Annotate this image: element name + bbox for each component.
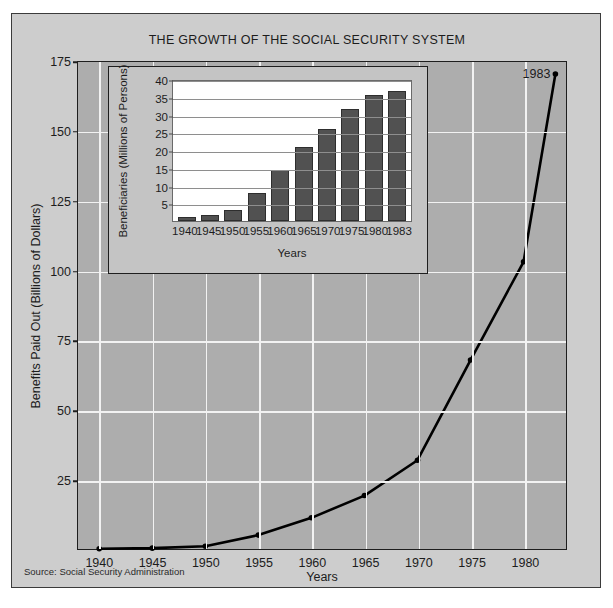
main-gridline-horizontal <box>78 341 566 343</box>
inset-y-tick-label: 5 <box>162 199 168 211</box>
main-y-tick-label: 100 <box>50 265 71 279</box>
inset-y-tick-label: 30 <box>155 111 168 123</box>
inset-bar <box>295 147 313 221</box>
inset-x-tick-label: 1945 <box>196 225 222 237</box>
inset-y-tick-mark <box>169 152 173 153</box>
inset-bar <box>341 109 359 221</box>
main-x-tick-label: 1950 <box>192 556 220 570</box>
inset-x-tick-label: 1940 <box>172 225 198 237</box>
inset-y-axis-title: Beneficiaries (Millions of Persons) <box>115 80 131 222</box>
figure-card: THE GROWTH OF THE SOCIAL SECURITY SYSTEM… <box>11 13 601 588</box>
main-y-tick-mark <box>73 480 78 482</box>
main-x-tick-label: 1980 <box>511 556 539 570</box>
inset-x-tick-label: 1955 <box>244 225 270 237</box>
inset-gridline-horizontal <box>173 99 411 100</box>
inset-y-axis-title-label: Beneficiaries (Millions of Persons) <box>117 64 129 237</box>
inset-bar <box>388 91 406 221</box>
main-x-tick-label: 1965 <box>352 556 380 570</box>
main-gridline-vertical <box>99 62 101 549</box>
inset-gridline-horizontal <box>173 170 411 171</box>
main-y-tick-label: 75 <box>57 334 71 348</box>
main-y-tick-label: 25 <box>57 474 71 488</box>
inset-y-tick-mark <box>169 98 173 99</box>
inset-bar <box>318 129 336 221</box>
main-y-tick-mark <box>73 341 78 343</box>
inset-y-tick-label: 20 <box>155 146 168 158</box>
inset-plot-area: 5101520253035401940194519501955196019651… <box>172 80 412 222</box>
inset-y-tick-label: 35 <box>155 93 168 105</box>
main-gridline-horizontal <box>78 481 566 483</box>
page-title: THE GROWTH OF THE SOCIAL SECURITY SYSTEM <box>12 33 602 47</box>
inset-x-tick-label: 1960 <box>267 225 293 237</box>
main-series-point <box>553 71 559 77</box>
main-x-tick-label: 1955 <box>245 556 273 570</box>
main-gridline-vertical <box>525 62 527 549</box>
inset-gridline-horizontal <box>173 205 411 206</box>
inset-x-axis-title: Years <box>172 247 412 259</box>
inset-y-tick-label: 15 <box>155 164 168 176</box>
main-y-tick-mark <box>73 201 78 203</box>
inset-y-tick-mark <box>169 134 173 135</box>
inset-gridline-horizontal <box>173 188 411 189</box>
main-y-tick-label: 150 <box>50 125 71 139</box>
main-gridline-horizontal <box>78 411 566 413</box>
inset-x-tick-label: 1975 <box>339 225 365 237</box>
inset-y-tick-label: 10 <box>155 182 168 194</box>
inset-y-tick-mark <box>169 116 173 117</box>
main-y-axis-title: Benefits Paid Out (Billions of Dollars) <box>27 61 45 550</box>
inset-y-tick-mark <box>169 169 173 170</box>
inset-y-tick-label: 40 <box>155 75 168 87</box>
main-gridline-vertical <box>472 62 474 549</box>
inset-bar <box>365 95 383 221</box>
source-note: Source: Social Security Administration <box>24 566 185 577</box>
inset-bar <box>201 215 219 221</box>
inset-x-tick-label: 1970 <box>315 225 341 237</box>
inset-gridline-horizontal <box>173 117 411 118</box>
main-x-tick-label: 1960 <box>298 556 326 570</box>
main-y-tick-mark <box>73 131 78 133</box>
main-y-tick-label: 125 <box>50 195 71 209</box>
main-x-tick-label: 1975 <box>458 556 486 570</box>
inset-bar-chart: Beneficiaries (Millions of Persons) 5101… <box>108 66 428 274</box>
main-point-annotation: 1983 <box>523 67 551 81</box>
inset-y-tick-mark <box>169 187 173 188</box>
inset-y-tick-mark <box>169 205 173 206</box>
inset-gridline-horizontal <box>173 81 411 82</box>
inset-bars-layer <box>173 81 411 221</box>
inset-gridline-horizontal <box>173 134 411 135</box>
inset-y-tick-label: 25 <box>155 128 168 140</box>
figure-root: THE GROWTH OF THE SOCIAL SECURITY SYSTEM… <box>0 0 613 608</box>
inset-bar <box>248 193 266 221</box>
inset-bar <box>271 170 289 221</box>
main-x-tick-label: 1970 <box>405 556 433 570</box>
inset-x-tick-label: 1965 <box>291 225 317 237</box>
inset-y-tick-mark <box>169 81 173 82</box>
main-y-tick-mark <box>73 411 78 413</box>
main-y-tick-label: 50 <box>57 404 71 418</box>
main-y-tick-mark <box>73 271 78 273</box>
inset-x-tick-label: 1980 <box>363 225 389 237</box>
inset-x-tick-label: 1950 <box>220 225 246 237</box>
inset-bar <box>178 217 196 221</box>
main-y-axis-title-label: Benefits Paid Out (Billions of Dollars) <box>29 203 43 408</box>
main-y-tick-label: 175 <box>50 55 71 69</box>
inset-x-tick-label: 1983 <box>386 225 412 237</box>
main-y-tick-mark <box>73 61 78 63</box>
inset-bar <box>224 210 242 221</box>
inset-gridline-horizontal <box>173 152 411 153</box>
